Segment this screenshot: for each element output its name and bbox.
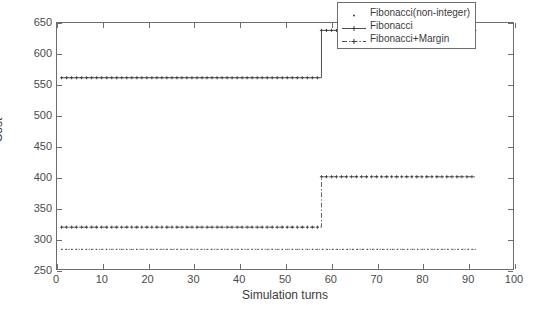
data-marker	[452, 249, 453, 250]
data-marker	[282, 249, 283, 250]
data-marker	[75, 226, 78, 229]
data-marker	[385, 175, 388, 178]
legend-item-3[interactable]: Fibonacci+Margin	[341, 32, 470, 45]
data-marker	[247, 249, 248, 250]
data-marker	[140, 226, 143, 229]
y-tick-label-250: 250	[34, 264, 52, 276]
figure-canvas: Cost 250300350400450500550600650 0102030…	[0, 0, 546, 310]
data-marker	[75, 76, 78, 79]
data-marker	[405, 175, 408, 178]
data-marker	[100, 226, 103, 229]
data-marker	[347, 249, 348, 250]
legend-box[interactable]: Fibonacci(non-integer)FibonacciFibonacci…	[337, 2, 476, 49]
data-marker	[90, 76, 93, 79]
data-marker	[130, 76, 133, 79]
data-marker	[472, 249, 473, 250]
y-tick-label-650: 650	[34, 16, 52, 28]
data-marker	[241, 226, 244, 229]
data-marker	[367, 249, 368, 250]
data-marker	[327, 249, 328, 250]
legend-label: Fibonacci+Margin	[370, 33, 449, 44]
data-marker	[130, 226, 133, 229]
data-marker	[350, 175, 353, 178]
data-marker	[465, 175, 468, 178]
data-marker	[60, 76, 63, 79]
legend-sample-icon	[341, 33, 367, 44]
data-marker	[370, 175, 373, 178]
data-marker	[141, 249, 142, 250]
data-marker	[225, 226, 228, 229]
data-marker	[120, 76, 123, 79]
data-marker	[136, 249, 137, 250]
data-marker	[195, 76, 198, 79]
data-marker	[225, 76, 228, 79]
data-marker	[161, 249, 162, 250]
x-tick-label-60: 60	[325, 273, 337, 285]
data-marker	[110, 76, 113, 79]
data-marker	[165, 76, 168, 79]
data-marker	[236, 76, 239, 79]
data-marker	[412, 249, 413, 250]
data-marker	[296, 76, 299, 79]
x-tick-label-80: 80	[416, 273, 428, 285]
data-marker	[165, 226, 168, 229]
data-marker	[131, 249, 132, 250]
data-marker	[287, 249, 288, 250]
data-marker	[246, 76, 249, 79]
data-marker	[345, 175, 348, 178]
data-marker	[220, 226, 223, 229]
data-marker	[400, 175, 403, 178]
legend-item-1[interactable]: Fibonacci(non-integer)	[341, 6, 470, 19]
data-marker	[180, 76, 183, 79]
data-marker	[256, 226, 259, 229]
data-marker	[200, 76, 203, 79]
data-marker	[175, 76, 178, 79]
data-marker	[306, 226, 309, 229]
data-marker	[340, 175, 343, 178]
data-marker	[215, 226, 218, 229]
data-marker	[445, 175, 448, 178]
data-marker	[121, 249, 122, 250]
data-marker	[425, 175, 428, 178]
y-axis-title: Cost	[0, 118, 5, 143]
data-marker	[115, 76, 118, 79]
data-marker	[271, 76, 274, 79]
data-marker	[372, 249, 373, 250]
data-marker	[440, 175, 443, 178]
data-marker	[262, 249, 263, 250]
x-tick-top-100	[515, 23, 516, 28]
data-marker	[296, 226, 299, 229]
data-marker	[145, 76, 148, 79]
data-marker	[332, 249, 333, 250]
data-marker	[380, 175, 383, 178]
data-marker	[236, 226, 239, 229]
x-tick-label-70: 70	[370, 273, 382, 285]
data-marker	[210, 76, 213, 79]
data-marker	[276, 76, 279, 79]
data-marker	[302, 249, 303, 250]
data-marker	[311, 226, 314, 229]
legend-item-2[interactable]: Fibonacci	[341, 19, 470, 32]
data-marker	[320, 29, 323, 32]
data-marker	[301, 226, 304, 229]
data-marker	[105, 76, 108, 79]
data-marker	[251, 76, 254, 79]
legend-label: Fibonacci(non-integer)	[370, 7, 470, 18]
data-marker	[241, 249, 242, 250]
data-marker	[156, 249, 157, 250]
data-marker	[155, 226, 158, 229]
data-marker	[126, 249, 127, 250]
series-layer	[57, 23, 513, 269]
data-marker	[231, 226, 234, 229]
data-marker	[185, 76, 188, 79]
data-marker	[357, 249, 358, 250]
data-marker	[325, 175, 328, 178]
data-marker	[76, 249, 77, 250]
data-marker	[322, 249, 323, 250]
x-axis-title: Simulation turns	[56, 288, 514, 302]
data-marker	[85, 226, 88, 229]
data-marker	[462, 249, 463, 250]
data-marker	[382, 249, 383, 250]
data-marker	[201, 249, 202, 250]
data-marker	[210, 226, 213, 229]
